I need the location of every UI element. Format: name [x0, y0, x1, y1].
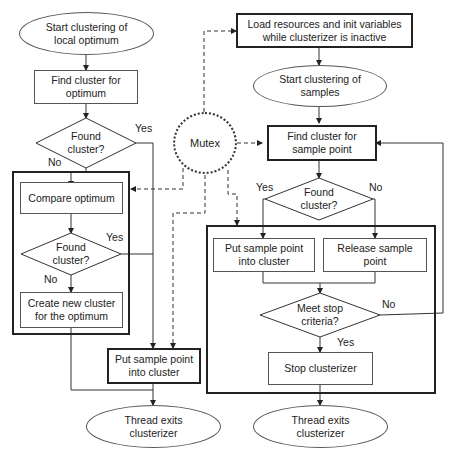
right-decision1-text: Found cluster?: [289, 186, 349, 212]
right-put-sample-box: Put sample point into cluster: [213, 238, 315, 272]
right-load-resources-box: Load resources and init variables while …: [236, 13, 413, 48]
right-release-sample-box: Release sample point: [323, 238, 427, 272]
left-start-node: Start clustering of local optimum: [19, 12, 154, 55]
right-find-cluster-box: Find cluster for sample point: [267, 125, 377, 161]
right-decision2-text: Meet stop criteria?: [290, 302, 350, 328]
right-decision2-yes-label: Yes: [337, 336, 354, 348]
left-decision1-no-label: No: [48, 156, 61, 168]
right-stop-clusterizer-box: Stop clusterizer: [268, 352, 373, 385]
right-decision1-yes-label: Yes: [256, 181, 273, 193]
left-compare-box: Compare optimum: [20, 182, 123, 214]
left-put-sample-box: Put sample point into cluster: [107, 348, 201, 384]
left-decision2-yes-label: Yes: [106, 231, 123, 243]
connector-lines: [0, 0, 452, 455]
left-decision2-text: Found cluster?: [41, 241, 101, 267]
left-create-cluster-box: Create new cluster for the optimum: [20, 292, 123, 328]
right-decision1-no-label: No: [369, 181, 382, 193]
right-start-node: Start clustering of samples: [253, 65, 387, 107]
mutex-label: Mutex: [190, 137, 220, 149]
right-exit-node: Thread exits clusterizer: [253, 405, 388, 448]
left-decision1-text: Found cluster?: [56, 130, 116, 156]
left-decision1-yes-label: Yes: [135, 122, 152, 134]
left-find-cluster-box: Find cluster for optimum: [34, 70, 138, 104]
flowchart-canvas: Start clustering of local optimum Find c…: [0, 0, 452, 455]
left-decision2-no-label: No: [44, 273, 57, 285]
right-decision2-no-label: No: [382, 298, 395, 310]
left-exit-node: Thread exits clusterizer: [86, 405, 221, 448]
mutex-node: Mutex: [173, 112, 237, 174]
